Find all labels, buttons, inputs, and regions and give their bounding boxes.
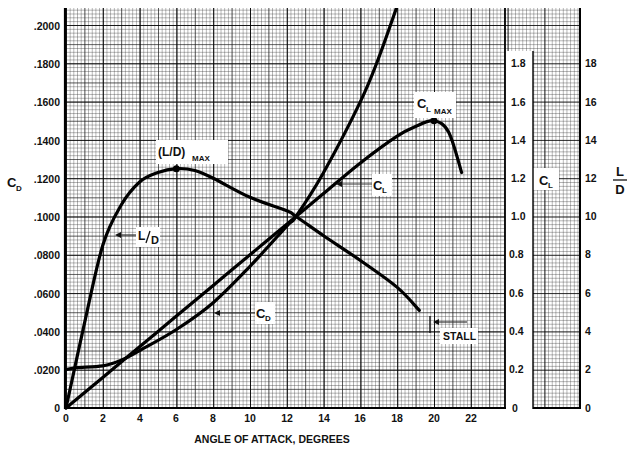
- annotation-cl-max: C L MAX: [414, 92, 456, 118]
- svg-text:10: 10: [244, 412, 256, 424]
- svg-text:D: D: [16, 184, 22, 193]
- svg-text:0.2: 0.2: [509, 363, 524, 375]
- svg-text:20: 20: [428, 412, 440, 424]
- svg-text:4: 4: [137, 412, 143, 424]
- svg-text:1.8: 1.8: [511, 57, 526, 69]
- svg-text:12: 12: [281, 412, 293, 424]
- cd-tick: .1800: [34, 58, 60, 70]
- svg-text:8: 8: [585, 248, 591, 260]
- svg-text:0.6: 0.6: [509, 287, 524, 299]
- svg-text:1.4: 1.4: [511, 134, 526, 146]
- svg-text:0: 0: [512, 402, 518, 414]
- svg-text:0.8: 0.8: [509, 248, 524, 260]
- svg-text:0.4: 0.4: [509, 325, 524, 337]
- svg-text:1.0: 1.0: [511, 210, 526, 222]
- cd-axis: .2000 .1800 .1600 .1400 .1200 .1000 .080…: [34, 20, 60, 414]
- svg-text:2: 2: [100, 412, 106, 424]
- svg-text:0: 0: [63, 412, 69, 424]
- svg-text:L: L: [382, 186, 387, 195]
- cd-axis-label: C D: [7, 175, 22, 193]
- annotation-ld-max: (L/D) MAX: [156, 140, 228, 164]
- svg-text:MAX: MAX: [192, 154, 210, 163]
- x-axis: 0 2 4 6 8 10 12 14 16 18 20 22: [63, 412, 477, 424]
- svg-text:14: 14: [585, 134, 597, 146]
- cd-tick: .1400: [34, 135, 60, 147]
- svg-text:22: 22: [465, 412, 477, 424]
- cd-tick: .0800: [34, 249, 60, 261]
- svg-text:D: D: [265, 314, 271, 323]
- cd-tick: .1600: [34, 96, 60, 108]
- svg-text:10: 10: [585, 210, 597, 222]
- cd-tick: .2000: [34, 20, 60, 32]
- svg-text:6: 6: [585, 287, 591, 299]
- svg-text:1.6: 1.6: [511, 96, 526, 108]
- svg-text:0: 0: [585, 402, 591, 414]
- svg-text:18: 18: [391, 412, 403, 424]
- svg-text:L: L: [426, 105, 431, 114]
- svg-text:L: L: [138, 229, 145, 243]
- svg-text:12: 12: [585, 172, 597, 184]
- x-axis-label: ANGLE OF ATTACK, DEGREES: [194, 433, 350, 445]
- svg-text:D: D: [151, 234, 159, 246]
- svg-text:16: 16: [354, 412, 366, 424]
- cd-tick: .0400: [34, 326, 60, 338]
- cd-tick: .1000: [34, 211, 60, 223]
- max-point-marker: [173, 165, 180, 172]
- svg-text:18: 18: [585, 57, 597, 69]
- cd-tick: 0: [54, 402, 60, 414]
- svg-text:1.2: 1.2: [511, 172, 526, 184]
- svg-text:6: 6: [173, 412, 179, 424]
- svg-text:14: 14: [318, 412, 330, 424]
- cd-tick: .0200: [34, 364, 60, 376]
- svg-text:STALL: STALL: [443, 330, 477, 342]
- svg-text:2: 2: [585, 363, 591, 375]
- max-point-marker: [431, 117, 438, 124]
- svg-text:4: 4: [585, 325, 591, 337]
- svg-text:L: L: [616, 164, 624, 179]
- svg-text:16: 16: [585, 96, 597, 108]
- svg-text:L: L: [548, 181, 553, 190]
- svg-text:(L/D): (L/D): [158, 145, 185, 159]
- ld-axis: 18 16 14 12 10 8 6 4 2 0: [585, 57, 597, 414]
- svg-text:D: D: [615, 182, 624, 197]
- aerodynamic-coefficients-chart: .2000 .1800 .1600 .1400 .1200 .1000 .080…: [0, 0, 633, 453]
- cd-tick: .1200: [34, 173, 60, 185]
- svg-text:8: 8: [210, 412, 216, 424]
- cd-tick: .0600: [34, 288, 60, 300]
- svg-text:MAX: MAX: [434, 107, 452, 116]
- ld-axis-label: L D: [613, 164, 627, 197]
